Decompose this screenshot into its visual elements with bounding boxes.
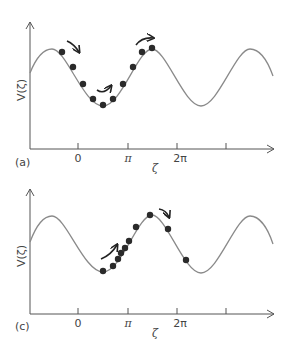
panel-label: (c) bbox=[15, 320, 30, 333]
motion-arrow-icon bbox=[136, 38, 153, 45]
motion-arrow-icon bbox=[159, 209, 169, 217]
y-axis-label: V(ζ) bbox=[15, 79, 28, 101]
x-tick-label-2pi: 2π bbox=[173, 152, 187, 165]
x-tick-label-pi: π bbox=[123, 317, 132, 330]
panel-label: (a) bbox=[15, 156, 30, 169]
x-tick-label-0: 0 bbox=[75, 152, 82, 165]
y-axis-label: V(ζ) bbox=[15, 245, 28, 267]
motion-arrow-icon bbox=[97, 86, 111, 92]
x-tick-label-pi: π bbox=[123, 152, 132, 165]
particle-dots bbox=[59, 45, 155, 108]
x-axis-label: ζ bbox=[152, 327, 159, 340]
x-tick-label-2pi: 2π bbox=[173, 317, 187, 330]
x-tick-label-0: 0 bbox=[75, 317, 82, 330]
x-axis-label: ζ bbox=[152, 162, 159, 175]
particle-dots bbox=[100, 212, 189, 274]
potential-curve bbox=[30, 215, 273, 273]
motion-arrow-icon bbox=[101, 245, 117, 259]
panel-c: V(ζ) 0 π 2π ζ (c) bbox=[15, 189, 274, 340]
panel-a: V(ζ) 0 π 2π ζ (a) bbox=[15, 22, 274, 175]
motion-arrow-icon bbox=[67, 41, 79, 52]
potential-curve bbox=[30, 49, 273, 106]
